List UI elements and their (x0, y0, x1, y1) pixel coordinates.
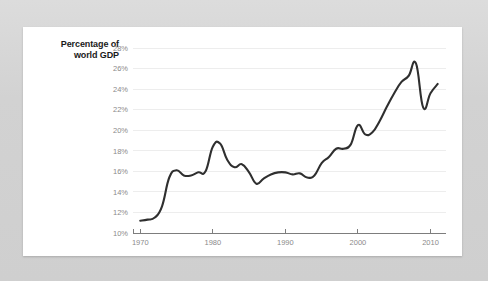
x-tick-label: 1990 (277, 238, 294, 247)
chart-plot-svg: 10%12%14%16%18%20%22%24%26%28%1970198019… (23, 27, 462, 256)
y-tick-label: 12% (113, 208, 128, 217)
line-chart: Percentage of world GDP 10%12%14%16%18%2… (23, 27, 462, 256)
chart-data-line (140, 62, 437, 221)
x-tick-label: 1970 (132, 238, 149, 247)
x-tick-label: 2010 (422, 238, 439, 247)
chart-card: Percentage of world GDP 10%12%14%16%18%2… (23, 27, 462, 256)
y-tick-label: 20% (113, 126, 128, 135)
y-tick-label: 16% (113, 167, 128, 176)
y-tick-label: 28% (113, 44, 128, 53)
y-tick-label: 10% (113, 229, 128, 238)
page-background: Percentage of world GDP 10%12%14%16%18%2… (0, 0, 488, 281)
y-tick-label: 26% (113, 64, 128, 73)
y-tick-label: 22% (113, 105, 128, 114)
y-tick-label: 18% (113, 147, 128, 156)
x-tick-label: 2000 (350, 238, 367, 247)
y-tick-label: 24% (113, 85, 128, 94)
y-tick-label: 14% (113, 188, 128, 197)
x-tick-label: 1980 (204, 238, 221, 247)
